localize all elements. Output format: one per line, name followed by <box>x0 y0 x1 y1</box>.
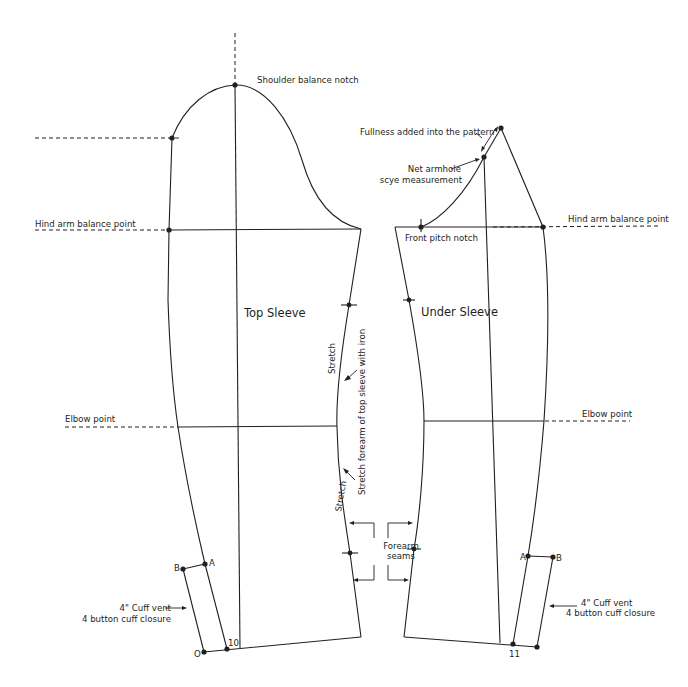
top-cuff-vent-arrowhead <box>182 606 187 610</box>
front-pitch-label: Front pitch notch <box>405 233 478 243</box>
arrowhead <box>408 521 413 525</box>
net-armhole-line2: scye measurement <box>380 175 463 185</box>
under-hindarm-label: Hind arm balance point <box>568 214 669 224</box>
top-point-10-label: 10 <box>228 638 239 648</box>
stretch-upper-label: Stretch <box>327 343 337 374</box>
top-sleeve-grainline <box>235 85 240 648</box>
under-cuff-vent-line1: 4" Cuff vent <box>581 598 633 608</box>
top-sleeve-notch-lower-dot <box>348 551 353 556</box>
top-point-b-dot <box>180 566 185 571</box>
top-sleeve-vent-inner <box>205 564 227 649</box>
forearm-bracket-lower-left <box>356 565 374 580</box>
under-point-a-label: A <box>520 552 526 562</box>
under-sleeve-hem <box>404 637 537 647</box>
top-sleeve-vent-top <box>183 564 205 569</box>
fullness-label: Fullness added into the pattern <box>360 127 494 137</box>
top-sleeve-hindarm-seam <box>168 138 205 564</box>
sleeve-pattern-diagram: Shoulder balance notch Hind arm balance … <box>0 0 688 687</box>
under-sleeve-hindarm-seam <box>501 128 548 556</box>
under-sleeve-forearm-seam <box>395 227 424 637</box>
top-cuff-vent-line1: 4" Cuff vent <box>120 603 172 613</box>
forearm-seams-callout: Forearm seams <box>349 521 419 582</box>
under-elbow-label: Elbow point <box>582 409 633 419</box>
stretch-lower-label: Stretch <box>333 480 348 512</box>
forearm-bracket-lower-right <box>388 565 406 580</box>
under-cuff-vent-arrowhead <box>549 604 554 608</box>
top-sleeve-panel: Shoulder balance notch Hind arm balance … <box>35 33 367 659</box>
top-point-a-dot <box>202 561 207 566</box>
under-sleeve-notch-upper-dot <box>407 298 412 303</box>
top-sleeve-hindarm-line <box>169 229 361 230</box>
under-sleeve-vent-outer <box>537 557 553 647</box>
under-point-b-dot <box>550 554 555 559</box>
under-point-b-label: B <box>556 553 562 563</box>
top-point-b-label: B <box>174 563 180 573</box>
net-armhole-dot <box>481 154 486 159</box>
back-pitch-dot <box>169 135 174 140</box>
under-point-a-dot <box>525 553 530 558</box>
net-armhole-line1: Net armhole <box>408 164 461 174</box>
top-sleeve-vent-outer <box>183 569 204 652</box>
arrowhead <box>404 578 409 582</box>
top-sleeve-crown-curve <box>172 85 361 229</box>
fullness-peak-dot <box>498 125 503 130</box>
top-hindarm-dot <box>166 227 171 232</box>
arrowhead <box>349 521 354 525</box>
under-hindarm-dot <box>540 224 545 229</box>
under-sleeve-vent-inner <box>513 556 528 644</box>
under-point-11-label: 11 <box>509 649 520 659</box>
stretch-forearm-note: Stretch forearm of top sleeve with iron <box>357 329 367 495</box>
forearm-bracket-upper-right <box>388 523 410 538</box>
top-point-a-label: A <box>209 558 215 568</box>
under-sleeve-notch-lower-dot <box>412 547 417 552</box>
front-pitch-dot <box>418 224 423 229</box>
under-sleeve-panel-label: Under Sleeve <box>421 305 498 319</box>
under-sleeve-vent-top <box>528 556 553 557</box>
under-cuff-vent-line2: 4 button cuff closure <box>566 608 655 618</box>
arrowhead <box>494 126 498 132</box>
top-point-o-dot <box>201 649 206 654</box>
top-sleeve-elbow-line <box>178 426 337 427</box>
under-sleeve-grainline <box>484 157 500 643</box>
under-point-11-dot <box>510 641 515 646</box>
top-sleeve-notch-upper-dot <box>347 303 352 308</box>
top-hindarm-label: Hind arm balance point <box>35 219 136 229</box>
under-vent-corner-dot <box>534 644 539 649</box>
top-elbow-label: Elbow point <box>65 414 116 424</box>
top-sleeve-panel-label: Top Sleeve <box>243 306 306 320</box>
arrowhead <box>475 158 480 162</box>
forearm-bracket-upper-left <box>352 523 374 538</box>
under-sleeve-panel: Fullness added into the pattern Net armh… <box>360 125 669 659</box>
shoulder-notch-label: Shoulder balance notch <box>257 75 359 85</box>
shoulder-notch-dot <box>232 82 237 87</box>
forearm-seams-line2: seams <box>387 551 415 561</box>
top-point-o-label: O <box>194 649 201 659</box>
top-cuff-vent-line2: 4 button cuff closure <box>82 614 171 624</box>
